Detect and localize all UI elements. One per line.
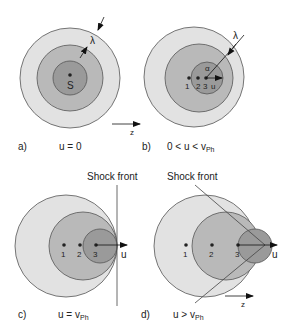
point-1 (187, 76, 191, 80)
point-3-label: 3 (235, 250, 240, 259)
wavelength-arrow-outer (98, 17, 104, 30)
point-2 (196, 76, 200, 80)
panel-c: Shock front 1 2 3 u c) u = vPh (15, 171, 138, 321)
point-2 (78, 243, 82, 247)
wavelength-arrow-outer (238, 35, 244, 42)
shock-front-label: Shock front (167, 171, 218, 182)
point-2 (210, 243, 214, 247)
angle-label: α (205, 64, 210, 73)
source-dot (68, 73, 72, 77)
panel-d: Shock front 1 2 3 u z d) u > vPh (141, 171, 278, 321)
point-1-label: 1 (183, 250, 188, 259)
condition-label: u > vPh (173, 309, 204, 321)
inner-wavefront (83, 229, 117, 263)
panel-label: a) (18, 141, 27, 152)
shock-front-label: Shock front (87, 171, 138, 182)
panel-label: d) (141, 309, 150, 320)
condition-label: u = 0 (59, 141, 82, 152)
z-axis-label: z (130, 128, 134, 137)
source-label: S (67, 80, 74, 91)
point-2-label: 2 (196, 82, 201, 91)
z-axis-label: z (241, 300, 245, 309)
velocity-label: u (121, 249, 127, 260)
panel-b: 1 2 3 u α λ b) 0 < u < vPh (142, 27, 244, 153)
wavelength-label: λ (233, 30, 238, 41)
panel-label: c) (18, 309, 26, 320)
condition-label: 0 < u < vPh (167, 141, 215, 153)
doppler-shock-diagram: S λ z a) u = 0 1 2 3 u α λ b) 0 < u < vP… (0, 0, 295, 328)
wavelength-label: λ (90, 35, 95, 46)
condition-label: u = vPh (58, 309, 89, 321)
point-1 (62, 243, 66, 247)
point-1-label: 1 (61, 250, 66, 259)
point-3-label: 3 (93, 250, 98, 259)
point-1 (184, 243, 188, 247)
point-3-label: 3 (203, 82, 208, 91)
panel-label: b) (142, 141, 151, 152)
condition-sub: Ph (195, 314, 204, 321)
condition-prefix: u = v (58, 309, 80, 320)
point-1-label: 1 (185, 82, 190, 91)
condition-sub: Ph (206, 146, 215, 153)
condition-prefix: 0 < u < v (167, 141, 206, 152)
condition-sub: Ph (80, 314, 89, 321)
point-2-label: 2 (209, 250, 214, 259)
panel-a: S λ z a) u = 0 (18, 17, 140, 152)
velocity-label: u (211, 82, 215, 91)
point-2-label: 2 (77, 250, 82, 259)
inner-wavefront (238, 229, 272, 263)
condition-prefix: u > v (173, 309, 195, 320)
velocity-label: u (272, 249, 278, 260)
